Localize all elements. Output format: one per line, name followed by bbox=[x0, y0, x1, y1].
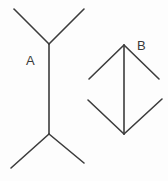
figure-b-top-left-arrowhead bbox=[89, 45, 124, 79]
figure-a-label: A bbox=[26, 53, 35, 68]
figure-a-bottom-right-fin bbox=[49, 134, 84, 163]
diagram-svg: A B bbox=[0, 0, 168, 181]
figure-a-top-left-fin bbox=[14, 9, 49, 44]
figure-b-bottom-left-arrowhead bbox=[88, 100, 124, 134]
figure-a: A bbox=[11, 9, 84, 168]
muller-lyer-diagram: A B bbox=[0, 0, 168, 181]
figure-b-bottom-right-arrowhead bbox=[124, 99, 162, 134]
figure-a-bottom-left-fin bbox=[11, 134, 49, 168]
figure-b: B bbox=[88, 38, 162, 134]
figure-b-label: B bbox=[137, 38, 146, 53]
figure-a-top-right-fin bbox=[49, 9, 84, 44]
